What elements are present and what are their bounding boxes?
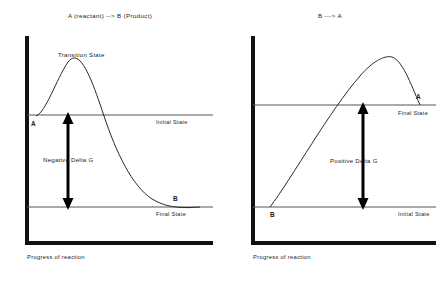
final-state-label-exergonic: Final State bbox=[156, 211, 186, 217]
delta-g-arrow-endergonic bbox=[358, 102, 369, 210]
final-state-label-endergonic: Final State bbox=[398, 110, 428, 116]
species-label-b-exergonic: B bbox=[173, 195, 178, 202]
reaction-energy-diagram-figure: A (reactant) --> B (Product) Transition … bbox=[0, 0, 440, 281]
energy-profile-curve-exergonic bbox=[36, 58, 200, 208]
species-label-b-endergonic: B bbox=[270, 211, 275, 218]
delta-g-label-exergonic: Negative Delta G bbox=[43, 156, 93, 163]
chart-canvas-endergonic bbox=[220, 0, 440, 281]
x-axis-label-endergonic: Progress of reaction bbox=[253, 254, 311, 260]
chart-panel-exergonic: A (reactant) --> B (Product) Transition … bbox=[0, 0, 220, 281]
x-axis-label-exergonic: Progress of reaction bbox=[27, 254, 85, 260]
transition-state-label-exergonic: Transition State bbox=[58, 52, 105, 58]
initial-state-label-exergonic: Initial State bbox=[156, 119, 188, 125]
chart-panel-endergonic: B ---> A A Final State Positive Delta G … bbox=[220, 0, 440, 281]
energy-profile-curve-endergonic bbox=[270, 57, 420, 207]
delta-g-label-endergonic: Positive Delta G bbox=[330, 157, 378, 164]
species-label-a-exergonic: A bbox=[31, 120, 36, 127]
chart-canvas-exergonic bbox=[0, 0, 220, 281]
species-label-a-endergonic: A bbox=[416, 93, 421, 100]
initial-state-label-endergonic: Initial State bbox=[398, 211, 430, 217]
